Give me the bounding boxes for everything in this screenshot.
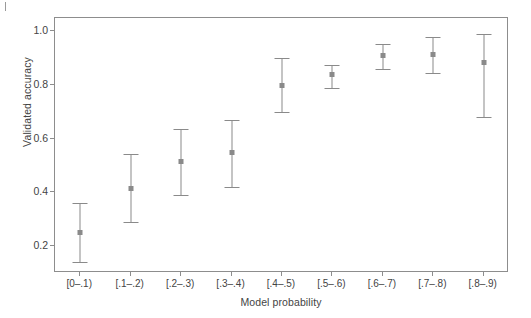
- x-tick-mark: [432, 272, 433, 276]
- errorbar-point: [426, 18, 441, 273]
- x-tick-mark: [331, 272, 332, 276]
- errorbar-cap-lower: [224, 187, 239, 188]
- y-tick-label: 0.6: [14, 132, 48, 144]
- x-tick-mark: [130, 272, 131, 276]
- plot-area: [54, 17, 508, 272]
- errorbar-cap-upper: [325, 65, 340, 66]
- errorbar-whisker: [483, 34, 484, 117]
- data-point-marker: [128, 186, 133, 191]
- data-point-marker: [280, 83, 285, 88]
- x-tick-mark: [382, 272, 383, 276]
- corner-tick-mark: [5, 2, 6, 11]
- y-axis-title: Validated accuracy: [21, 32, 33, 172]
- errorbar-point: [73, 18, 88, 273]
- errorbar-point: [224, 18, 239, 273]
- errorbar-cap-upper: [476, 34, 491, 35]
- y-tick-label: 0.8: [14, 78, 48, 90]
- errorbar-cap-upper: [426, 37, 441, 38]
- data-point-marker: [481, 60, 486, 65]
- errorbar-point: [325, 18, 340, 273]
- chart-figure: Validated accuracy 0.20.40.60.81.0 [0–.1…: [0, 0, 531, 318]
- data-point-marker: [78, 230, 83, 235]
- y-tick-label: 0.2: [14, 239, 48, 251]
- x-tick-mark: [180, 272, 181, 276]
- errorbar-cap-lower: [123, 222, 138, 223]
- errorbar-point: [476, 18, 491, 273]
- errorbar-cap-lower: [375, 69, 390, 70]
- errorbar-cap-lower: [325, 88, 340, 89]
- errorbar-cap-upper: [375, 44, 390, 45]
- data-point-marker: [330, 72, 335, 77]
- errorbar-cap-lower: [174, 195, 189, 196]
- y-tick-label: 0.4: [14, 185, 48, 197]
- data-point-marker: [179, 159, 184, 164]
- data-point-marker: [229, 150, 234, 155]
- errorbar-point: [174, 18, 189, 273]
- errorbar-cap-upper: [275, 58, 290, 59]
- errorbar-point: [275, 18, 290, 273]
- errorbar-cap-lower: [476, 117, 491, 118]
- data-point-marker: [380, 53, 385, 58]
- x-tick-mark: [231, 272, 232, 276]
- errorbar-cap-upper: [123, 154, 138, 155]
- errorbar-cap-lower: [73, 262, 88, 263]
- x-axis-title: Model probability: [54, 296, 508, 308]
- errorbar-point: [375, 18, 390, 273]
- x-tick-label: [.8–.9): [448, 278, 518, 289]
- errorbar-cap-upper: [73, 203, 88, 204]
- x-tick-mark: [281, 272, 282, 276]
- errorbar-cap-lower: [426, 73, 441, 74]
- x-tick-mark: [79, 272, 80, 276]
- errorbar-point: [123, 18, 138, 273]
- errorbar-cap-lower: [275, 112, 290, 113]
- x-tick-mark: [483, 272, 484, 276]
- data-point-marker: [431, 52, 436, 57]
- errorbar-cap-upper: [174, 129, 189, 130]
- y-tick-label: 1.0: [14, 24, 48, 36]
- errorbar-cap-upper: [224, 120, 239, 121]
